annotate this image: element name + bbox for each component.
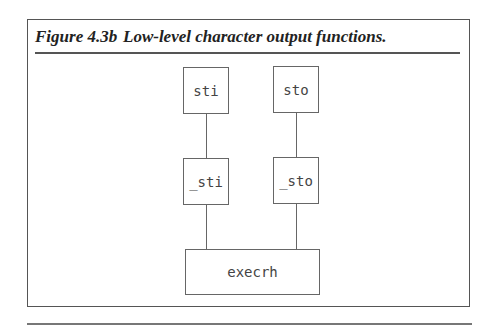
edge-_sti-execrh <box>206 204 207 250</box>
node-sto: sto <box>273 66 319 113</box>
node-sti: sti <box>183 67 229 114</box>
node-label: sto <box>283 82 308 98</box>
figure-caption: Figure 4.3bLow-level character output fu… <box>35 27 387 47</box>
node-label: execrh <box>227 264 278 280</box>
node-_sto: _sto <box>273 157 319 204</box>
figure-number: Figure 4.3b <box>35 27 123 47</box>
caption-rule <box>35 52 460 54</box>
edge-_sto-execrh <box>296 203 297 250</box>
figure-title: Low-level character output functions. <box>123 27 387 46</box>
node-_sti: _sti <box>183 158 229 205</box>
page-rule <box>27 323 472 325</box>
node-label: sti <box>193 83 218 99</box>
node-label: _sti <box>189 174 223 190</box>
node-execrh: execrh <box>185 249 320 295</box>
node-label: _sto <box>279 173 313 189</box>
